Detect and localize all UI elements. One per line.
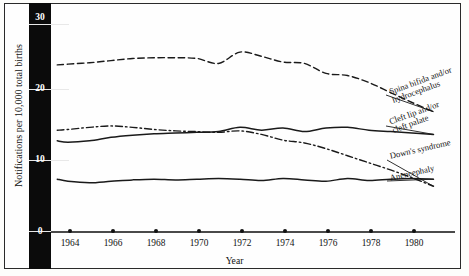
x-tick-label-1966: 1966 [93, 238, 133, 248]
x-tick-label-1974: 1974 [265, 238, 305, 248]
x-tick-label-1978: 1978 [351, 238, 391, 248]
x-tick-label-1976: 1976 [308, 238, 348, 248]
chart-frame [4, 3, 461, 269]
y-tick-label-20: 20 [29, 83, 51, 94]
x-tick-label-1972: 1972 [222, 238, 262, 248]
y-tick-label-10: 10 [29, 154, 51, 165]
figure-chart: 0 10 20 30 Notifications per 10,000 tota… [0, 0, 469, 276]
y-axis-title: Notifications per 10,000 total births [13, 16, 24, 216]
x-tick-label-1980: 1980 [394, 238, 434, 248]
x-tick-label-1968: 1968 [136, 238, 176, 248]
y-tick-label-0: 0 [29, 226, 51, 237]
x-tick-label-1970: 1970 [179, 238, 219, 248]
y-tick-rule-30 [29, 24, 69, 25]
x-tick-label-1964: 1964 [50, 238, 90, 248]
x-axis-title: Year [0, 255, 469, 266]
y-tick-label-30: 30 [29, 12, 51, 23]
